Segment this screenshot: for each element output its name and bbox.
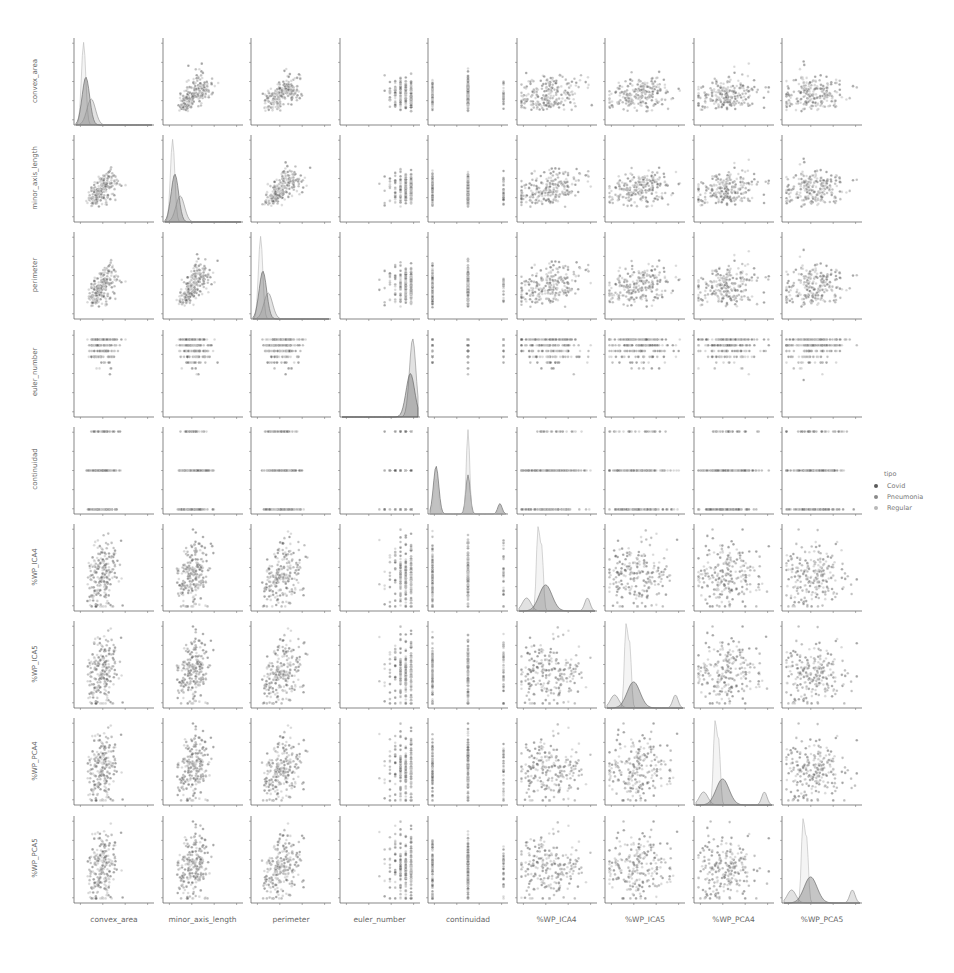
y-axis-label: euler_number [31, 327, 39, 417]
panel-%WP_ICA4-vs-euler_number [340, 524, 420, 611]
legend-item-pneumonia: Pneumonia [870, 493, 923, 501]
panel-minor_axis_length-vs-%WP_ICA4 [517, 135, 597, 222]
panel-minor_axis_length-vs-%WP_PCA4 [694, 135, 774, 222]
panel-euler_number-vs-perimeter [251, 330, 331, 417]
panel-continuidad-vs-perimeter [251, 427, 331, 514]
panel-%WP_ICA4-vs-%WP_ICA5 [605, 524, 685, 611]
panel-minor_axis_length-vs-%WP_ICA5 [605, 135, 685, 222]
x-axis-label: %WP_ICA4 [517, 915, 597, 924]
panel-%WP_ICA5-vs-minor_axis_length [163, 621, 243, 708]
panel-%WP_PCA4-vs-perimeter [251, 718, 331, 805]
panel-euler_number-vs-euler_number [340, 330, 420, 417]
panel-%WP_PCA5-vs-%WP_PCA5 [782, 816, 862, 903]
panel-%WP_PCA4-vs-%WP_PCA4 [694, 718, 774, 805]
panel-minor_axis_length-vs-perimeter [251, 135, 331, 222]
panel-perimeter-vs-euler_number [340, 232, 420, 319]
panel-perimeter-vs-perimeter [251, 232, 331, 319]
panel-convex_area-vs-euler_number [340, 38, 420, 125]
panel-euler_number-vs-%WP_ICA4 [517, 330, 597, 417]
panel-%WP_ICA4-vs-%WP_PCA5 [782, 524, 862, 611]
panel-%WP_PCA5-vs-%WP_ICA5 [605, 816, 685, 903]
panel-continuidad-vs-%WP_ICA4 [517, 427, 597, 514]
legend-marker-icon [874, 484, 878, 488]
panel-perimeter-vs-%WP_PCA4 [694, 232, 774, 319]
legend-label: Regular [887, 504, 912, 512]
panel-%WP_PCA5-vs-convex_area [74, 816, 154, 903]
x-axis-label: %WP_ICA5 [605, 915, 685, 924]
panel-%WP_ICA5-vs-euler_number [340, 621, 420, 708]
x-axis-label: continuidad [428, 915, 508, 924]
panel-convex_area-vs-minor_axis_length [163, 38, 243, 125]
panel-%WP_PCA5-vs-perimeter [251, 816, 331, 903]
legend-item-covid: Covid [870, 482, 923, 490]
panel-%WP_PCA5-vs-euler_number [340, 816, 420, 903]
panel-%WP_PCA4-vs-%WP_PCA5 [782, 718, 862, 805]
panel-%WP_ICA5-vs-convex_area [74, 621, 154, 708]
panel-%WP_ICA5-vs-%WP_PCA5 [782, 621, 862, 708]
y-axis-label: continuidad [31, 424, 39, 514]
panel-continuidad-vs-euler_number [340, 427, 420, 514]
y-axis-label: perimeter [31, 230, 39, 320]
y-axis-label: %WP_ICA4 [31, 522, 39, 612]
panel-%WP_PCA5-vs-%WP_PCA4 [694, 816, 774, 903]
panel-%WP_PCA5-vs-%WP_ICA4 [517, 816, 597, 903]
panel-minor_axis_length-vs-continuidad [428, 135, 508, 222]
panel-euler_number-vs-continuidad [428, 330, 508, 417]
panel-%WP_ICA5-vs-%WP_PCA4 [694, 621, 774, 708]
panel-convex_area-vs-%WP_ICA4 [517, 38, 597, 125]
panel-minor_axis_length-vs-euler_number [340, 135, 420, 222]
panel-%WP_ICA4-vs-%WP_PCA4 [694, 524, 774, 611]
y-axis-label: %WP_PCA5 [31, 813, 39, 903]
panel-%WP_ICA5-vs-perimeter [251, 621, 331, 708]
panel-euler_number-vs-%WP_PCA5 [782, 330, 862, 417]
panel-euler_number-vs-%WP_ICA5 [605, 330, 685, 417]
panel-%WP_PCA5-vs-continuidad [428, 816, 508, 903]
y-axis-label: minor_axis_length [31, 133, 39, 223]
panel-%WP_ICA4-vs-convex_area [74, 524, 154, 611]
y-axis-label: %WP_ICA5 [31, 619, 39, 709]
panel-convex_area-vs-%WP_PCA5 [782, 38, 862, 125]
panel-continuidad-vs-%WP_PCA4 [694, 427, 774, 514]
panel-minor_axis_length-vs-minor_axis_length [163, 135, 243, 222]
panel-%WP_ICA4-vs-minor_axis_length [163, 524, 243, 611]
x-axis-label: %WP_PCA4 [694, 915, 774, 924]
panel-perimeter-vs-continuidad [428, 232, 508, 319]
panel-%WP_ICA4-vs-%WP_ICA4 [517, 524, 597, 611]
panel-convex_area-vs-convex_area [74, 38, 154, 125]
panel-%WP_PCA4-vs-minor_axis_length [163, 718, 243, 805]
legend: tipo Covid Pneumonia Regular [870, 470, 923, 515]
panel-%WP_ICA4-vs-continuidad [428, 524, 508, 611]
panel-%WP_PCA4-vs-%WP_ICA4 [517, 718, 597, 805]
panel-perimeter-vs-minor_axis_length [163, 232, 243, 319]
pairplot-grid: convex_areaminor_axis_lengthperimetereul… [0, 0, 954, 973]
panel-continuidad-vs-minor_axis_length [163, 427, 243, 514]
panel-%WP_PCA5-vs-minor_axis_length [163, 816, 243, 903]
y-axis-label: %WP_PCA4 [31, 716, 39, 806]
panel-convex_area-vs-%WP_PCA4 [694, 38, 774, 125]
panel-%WP_ICA5-vs-%WP_ICA4 [517, 621, 597, 708]
x-axis-label: minor_axis_length [163, 915, 243, 924]
legend-label: Covid [887, 482, 905, 490]
legend-item-regular: Regular [870, 504, 923, 512]
panel-euler_number-vs-convex_area [74, 330, 154, 417]
panel-%WP_PCA4-vs-convex_area [74, 718, 154, 805]
panel-convex_area-vs-perimeter [251, 38, 331, 125]
panel-continuidad-vs-%WP_PCA5 [782, 427, 862, 514]
panel-continuidad-vs-%WP_ICA5 [605, 427, 685, 514]
legend-marker-icon [874, 506, 878, 510]
x-axis-label: %WP_PCA5 [782, 915, 862, 924]
panel-perimeter-vs-%WP_ICA4 [517, 232, 597, 319]
panel-perimeter-vs-convex_area [74, 232, 154, 319]
panel-minor_axis_length-vs-%WP_PCA5 [782, 135, 862, 222]
legend-label: Pneumonia [887, 493, 923, 501]
panel-convex_area-vs-continuidad [428, 38, 508, 125]
panel-minor_axis_length-vs-convex_area [74, 135, 154, 222]
panel-euler_number-vs-minor_axis_length [163, 330, 243, 417]
panel-perimeter-vs-%WP_PCA5 [782, 232, 862, 319]
legend-marker-icon [874, 495, 878, 499]
x-axis-label: euler_number [340, 915, 420, 924]
panel-continuidad-vs-convex_area [74, 427, 154, 514]
panel-%WP_ICA4-vs-perimeter [251, 524, 331, 611]
panel-euler_number-vs-%WP_PCA4 [694, 330, 774, 417]
panel-%WP_PCA4-vs-continuidad [428, 718, 508, 805]
